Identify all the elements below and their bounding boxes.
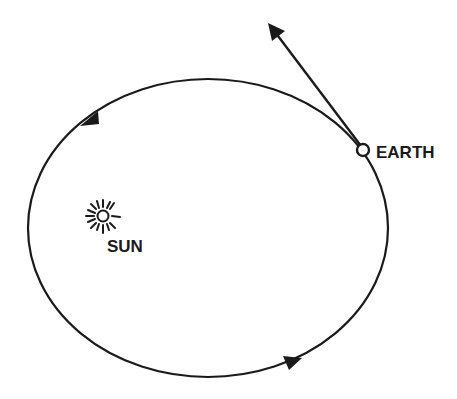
velocity-vector: [268, 23, 361, 146]
planet-circle-icon: [357, 144, 369, 156]
sun: SUN: [86, 200, 143, 256]
sun-label: SUN: [107, 237, 143, 256]
earth-orbit: [28, 79, 388, 377]
orbit-diagram: EARTH SUN: [0, 0, 457, 399]
orbit-direction-arrow-icon: [80, 111, 99, 126]
earth-label: EARTH: [376, 143, 435, 162]
arrowhead-icon: [268, 23, 285, 41]
sun-icon: [86, 200, 120, 233]
